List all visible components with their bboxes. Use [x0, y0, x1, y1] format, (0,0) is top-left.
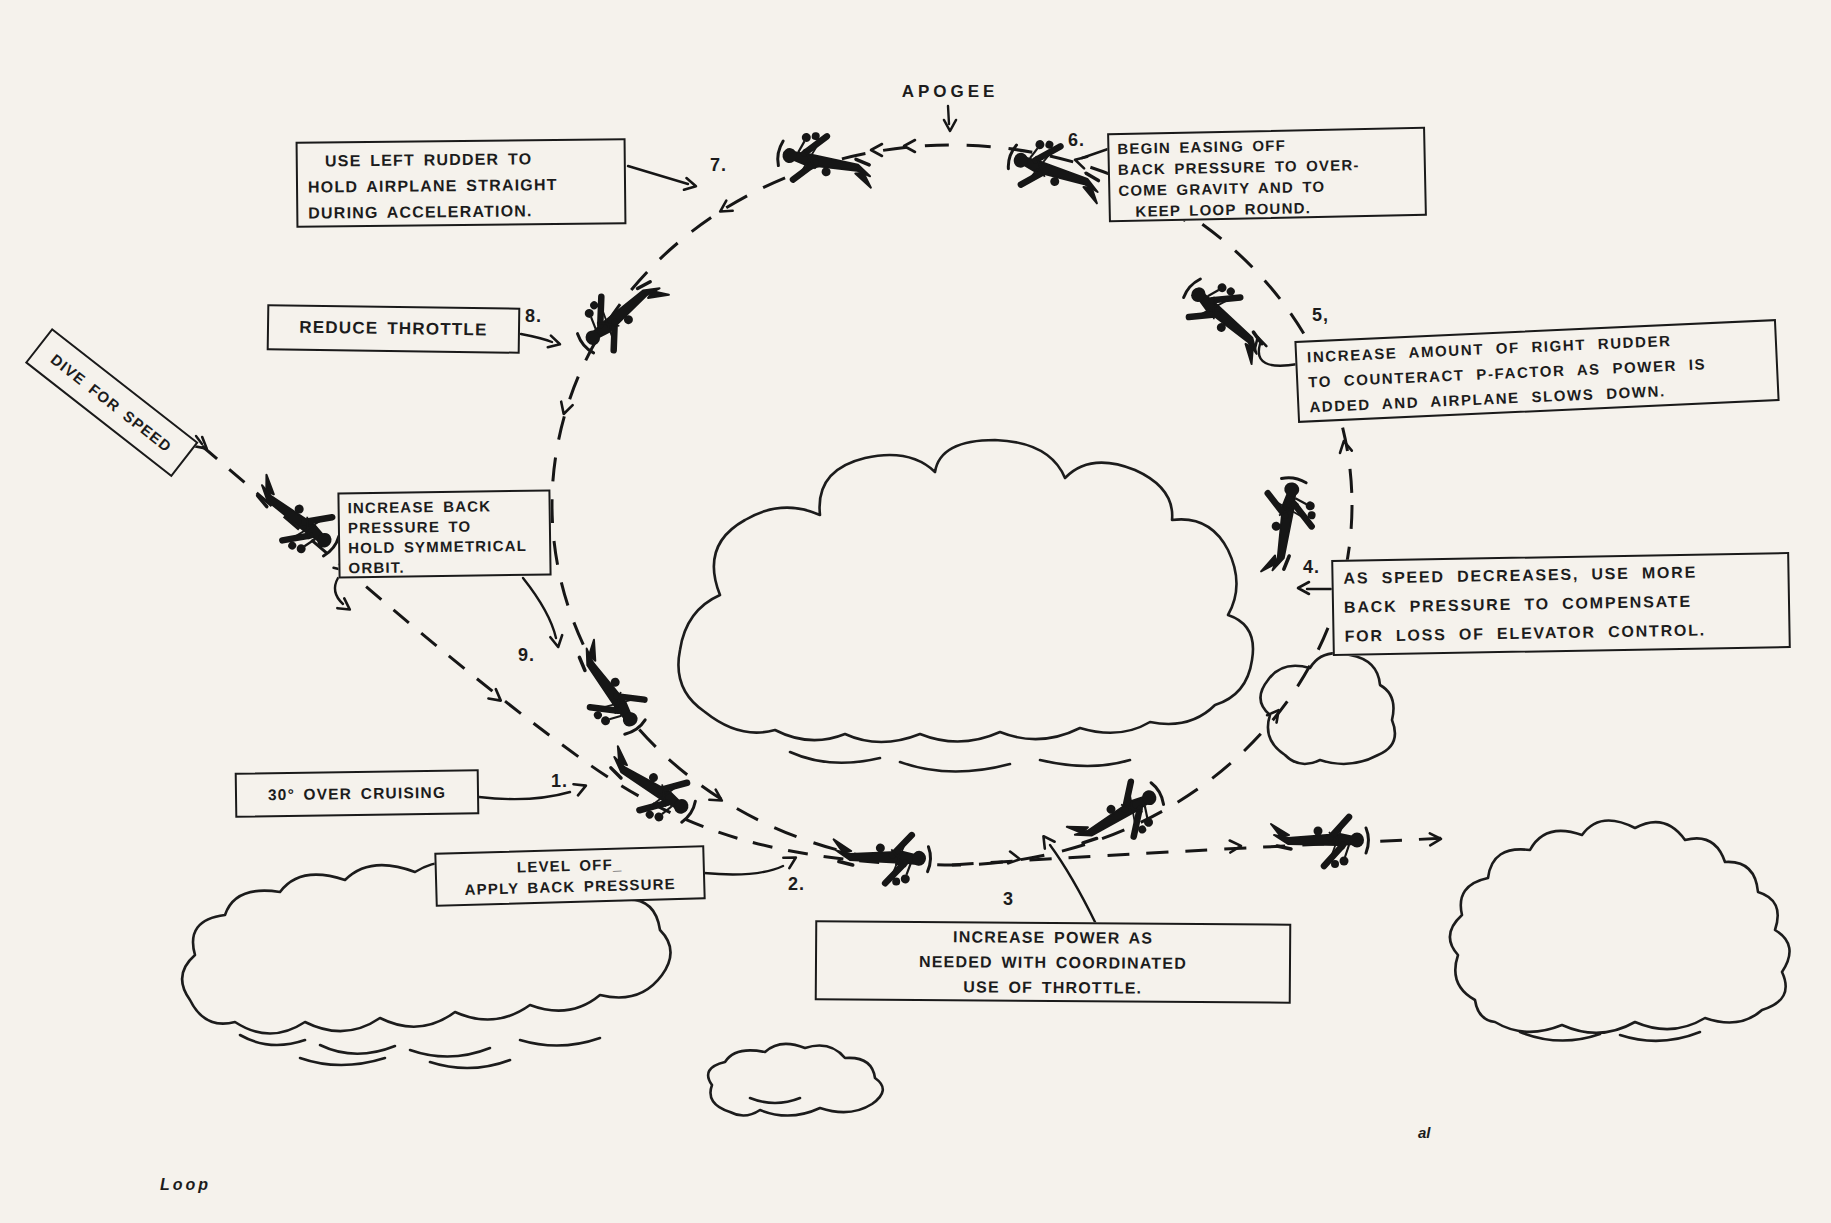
figure-caption: Loop: [160, 1176, 211, 1194]
connector-step2: [704, 852, 799, 874]
biplane-step-2: [832, 832, 931, 886]
note-over-cruising: 30° OVER CRUISING: [235, 769, 480, 817]
step-label-2: 2.: [788, 874, 805, 895]
artist-signature: al: [1418, 1124, 1431, 1141]
connector-step7: [628, 166, 697, 192]
note-speed-decreases: AS SPEED DECREASES, USE MORE BACK PRESSU…: [1331, 552, 1791, 656]
connector-apogee: [944, 106, 956, 131]
step-label-1: 1.: [551, 771, 568, 792]
loop-diagram: APOGEE USE LEFT RUDDER TO HOLD AIRPLANE …: [0, 0, 1831, 1223]
step-label-8: 8.: [525, 306, 542, 327]
connector-step9-right: [523, 578, 564, 648]
biplane-step-3: [1063, 772, 1173, 865]
note-level-off: LEVEL OFF_ APPLY BACK PRESSURE: [434, 845, 705, 907]
connector-step5: [1252, 335, 1298, 365]
cloud-center: [678, 440, 1253, 772]
biplane-step-7: [774, 126, 879, 195]
biplane-step-9: [558, 636, 656, 745]
loop-path-circle: [552, 145, 1352, 865]
note-increase-back-pressure: INCREASE BACK PRESSURE TO HOLD SYMMETRIC…: [337, 490, 551, 579]
step-label-6: 6.: [1068, 130, 1085, 151]
step-label-7: 7.: [710, 155, 727, 176]
note-increase-power: INCREASE POWER AS NEEDED WITH COORDINATE…: [815, 920, 1292, 1003]
biplane-exit: [1271, 817, 1369, 868]
note-use-left-rudder: USE LEFT RUDDER TO HOLD AIRPLANE STRAIGH…: [296, 138, 627, 227]
step-label-9: 9.: [518, 645, 535, 666]
step-label-4: 4.: [1303, 557, 1320, 578]
biplane-step-1: [594, 740, 704, 836]
biplane-step-8: [566, 261, 673, 363]
note-begin-easing-off: BEGIN EASING OFF BACK PRESSURE TO OVER- …: [1107, 127, 1427, 223]
apogee-label: APOGEE: [880, 82, 1020, 102]
connector-step4: [1298, 582, 1331, 594]
exit-path: [952, 838, 1448, 865]
connector-step8: [521, 334, 562, 350]
connector-step6: [1073, 149, 1108, 168]
cloud-bottom-center: [708, 1044, 883, 1116]
note-reduce-throttle: REDUCE THROTTLE: [267, 304, 521, 354]
connector-step1: [479, 780, 588, 799]
connector-step9-left: [335, 578, 353, 614]
step-label-5: 5,: [1312, 305, 1329, 326]
connector-step3: [1039, 833, 1096, 924]
biplane-dive: [239, 469, 347, 569]
cloud-bottom-right: [1450, 820, 1790, 1040]
step-label-3: 3: [1003, 889, 1014, 910]
